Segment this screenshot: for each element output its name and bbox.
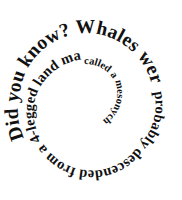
- spiral-text-graphic: Did you know? Whales were probably desce…: [0, 0, 182, 200]
- spiral-text-canvas: Did you know? Whales were probably desce…: [0, 0, 182, 200]
